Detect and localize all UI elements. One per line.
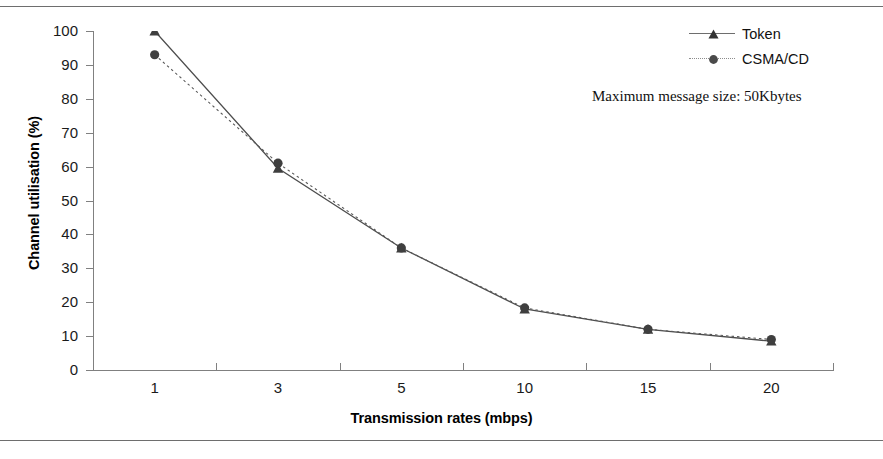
circle-marker-icon: [397, 243, 406, 252]
x-axis-tick: [833, 363, 834, 371]
circle-marker-icon: [643, 325, 652, 334]
y-axis-tick-label: 10: [22, 328, 78, 343]
bottom-divider: [0, 440, 883, 441]
series-line-token: [155, 31, 772, 341]
y-axis-tick-label: 0: [22, 362, 78, 377]
y-axis-tick-label: 60: [22, 159, 78, 174]
y-axis-tick: [86, 268, 93, 269]
triangle-marker-icon: [149, 31, 159, 35]
y-axis-tick: [86, 31, 93, 32]
y-axis-tick: [86, 336, 93, 337]
y-axis-tick: [86, 370, 93, 371]
legend-key-token: [689, 25, 735, 43]
legend-item-token: Token: [689, 21, 874, 46]
series-layer: [93, 31, 833, 370]
circle-marker-icon: [273, 159, 282, 168]
legend-label-csmacd: CSMA/CD: [735, 51, 809, 67]
y-axis-tick-label: 50: [22, 193, 78, 208]
legend-label-token: Token: [735, 26, 781, 42]
top-divider: [0, 6, 883, 7]
chart-figure: Channel utilisation (%) Transmission rat…: [0, 0, 883, 459]
circle-marker-icon: [767, 335, 776, 344]
circle-marker-icon: [520, 303, 529, 312]
y-axis-tick-label: 40: [22, 226, 78, 241]
y-axis-tick: [86, 167, 93, 168]
triangle-marker-icon: [708, 29, 719, 39]
y-axis-tick-label: 90: [22, 57, 78, 72]
y-axis-tick: [86, 65, 93, 66]
circle-marker-icon: [150, 50, 159, 59]
plot-area: [93, 31, 833, 370]
y-axis-tick: [86, 302, 93, 303]
y-axis-tick-label: 70: [22, 125, 78, 140]
x-axis-tick-label: 20: [741, 379, 801, 396]
x-axis-tick-label: 10: [495, 379, 555, 396]
y-axis-tick: [86, 201, 93, 202]
y-axis-tick-label: 100: [22, 23, 78, 38]
legend-item-csmacd: CSMA/CD: [689, 46, 874, 71]
x-axis-title: Transmission rates (mbps): [0, 410, 883, 426]
y-axis-tick: [86, 99, 93, 100]
chart-annotation: Maximum message size: 50Kbytes: [592, 88, 802, 105]
x-axis-tick-label: 15: [618, 379, 678, 396]
y-axis-tick-label: 80: [22, 91, 78, 106]
x-axis-tick-label: 5: [371, 379, 431, 396]
x-axis-tick-label: 3: [248, 379, 308, 396]
chart-legend: Token CSMA/CD: [689, 21, 874, 71]
circle-marker-icon: [708, 54, 719, 65]
y-axis-tick-label: 20: [22, 294, 78, 309]
x-axis-tick-label: 1: [125, 379, 185, 396]
y-axis-tick: [86, 133, 93, 134]
y-axis-tick-label: 30: [22, 260, 78, 275]
y-axis-tick: [86, 234, 93, 235]
legend-key-csmacd: [689, 50, 735, 68]
